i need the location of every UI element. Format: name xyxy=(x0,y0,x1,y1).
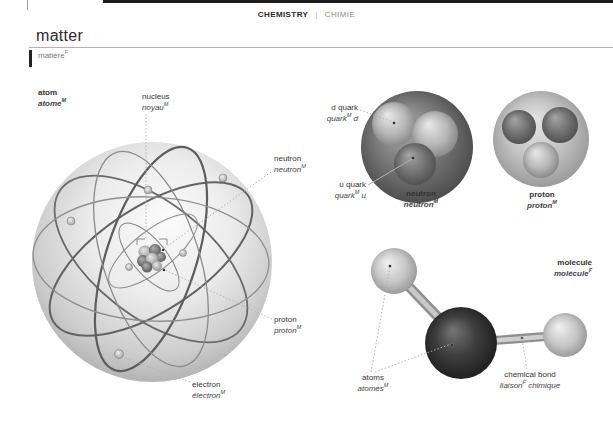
chemical-bond-leader-line xyxy=(522,339,527,369)
label-nucleus-fr: noyauM xyxy=(142,103,170,114)
atom-diagram xyxy=(25,134,276,384)
electron-particle xyxy=(126,264,133,271)
leader-dot xyxy=(162,249,164,251)
label-electron: electron électronM xyxy=(192,380,225,401)
d-quark-sphere xyxy=(523,142,559,178)
proton-diagram xyxy=(493,91,589,187)
label-proton: proton protonM xyxy=(527,190,557,211)
atom-sphere-small xyxy=(371,248,417,294)
label-atom: atom atomeM xyxy=(38,88,66,109)
title-rule xyxy=(29,47,613,48)
page-corner-tick xyxy=(27,0,28,10)
label-proton-fr: protonM xyxy=(527,201,557,212)
label-d-quark: d quark quarkM d xyxy=(327,103,358,124)
category-separator: | xyxy=(315,10,317,19)
label-u-quark: u quark quarkM u xyxy=(335,180,366,201)
page-title: matter xyxy=(36,27,83,45)
u-quark-sphere xyxy=(502,110,536,144)
page-title-fr: matièreF xyxy=(38,51,68,60)
label-electron-fr: électronM xyxy=(192,391,225,402)
category-header: CHEMISTRY | CHIMIE xyxy=(0,10,613,19)
electron-particle xyxy=(115,350,124,359)
label-chemical-bond-en: chemical bond xyxy=(500,370,560,381)
atom-sphere-large xyxy=(425,307,497,379)
illustration-canvas xyxy=(0,0,613,422)
electron-particle xyxy=(67,217,75,225)
u-quark-sphere xyxy=(394,143,436,185)
label-molecule-en: molecule xyxy=(554,258,592,269)
leader-dot xyxy=(451,344,454,347)
label-d-quark-en: d quark xyxy=(327,103,358,114)
label-chemical-bond-fr: liaisonF chimique xyxy=(500,381,560,392)
leader-dot xyxy=(163,269,165,271)
label-neutron: neutron neutronM xyxy=(404,189,438,210)
leader-dot xyxy=(412,157,415,160)
electron-particle xyxy=(144,186,152,194)
page-title-fr-text: matière xyxy=(38,51,65,60)
label-molecule-fr: moléculeF xyxy=(554,269,592,280)
atom-sphere-small xyxy=(543,313,587,357)
leader-dot xyxy=(389,265,392,268)
page-title-fr-gender: F xyxy=(65,49,68,55)
label-atoms-fr: atomesM xyxy=(358,384,389,395)
label-neutron-fr: neutronM xyxy=(404,200,438,211)
label-molecule: molecule moléculeF xyxy=(554,258,592,279)
label-atoms: atoms atomesM xyxy=(358,373,389,394)
label-d-quark-fr: quarkM d xyxy=(327,114,358,125)
neutron-diagram xyxy=(361,91,473,203)
electron-particle xyxy=(219,174,227,182)
category-title-fr: CHIMIE xyxy=(325,10,355,19)
dictionary-page: { "header": { "category_en": "CHEMISTRY"… xyxy=(0,0,613,422)
category-title-en: CHEMISTRY xyxy=(258,10,308,19)
label-neutron-pointer: neutron neutronM xyxy=(274,154,306,175)
label-u-quark-fr: quarkM u xyxy=(335,191,366,202)
label-chemical-bond: chemical bond liaisonF chimique xyxy=(500,370,560,391)
u-quark-sphere xyxy=(542,107,578,143)
nucleon xyxy=(152,261,162,271)
label-atom-fr: atomeM xyxy=(38,99,66,110)
label-nucleus: nucleus noyauM xyxy=(142,92,170,113)
label-u-quark-en: u quark xyxy=(335,180,366,191)
leader-dot xyxy=(521,337,524,340)
title-accent-bar xyxy=(29,50,32,67)
electron-particle xyxy=(180,250,187,257)
label-neutron-pointer-fr: neutronM xyxy=(274,165,306,176)
label-proton-pointer: proton protonM xyxy=(274,315,301,336)
nucleon xyxy=(142,262,153,273)
leader-dot xyxy=(393,122,396,125)
page-top-bar xyxy=(103,0,613,3)
label-proton-pointer-fr: protonM xyxy=(274,326,301,337)
